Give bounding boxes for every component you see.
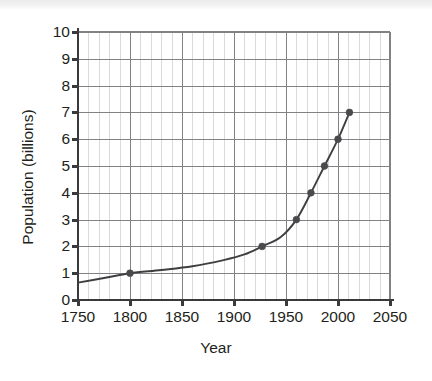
x-tick-label-1850: 1850: [152, 309, 212, 325]
x-tick-label-1800: 1800: [100, 309, 160, 325]
x-tick-label-1950: 1950: [256, 309, 316, 325]
x-axis-title: Year: [0, 339, 432, 357]
x-tick-label-1750: 1750: [48, 309, 108, 325]
x-tick-label-1900: 1900: [204, 309, 264, 325]
y-axis-title: Population (billions): [19, 87, 37, 267]
x-axis-tick-labels: 1750180018501900195020002050: [0, 0, 432, 381]
x-tick-label-2050: 2050: [360, 309, 420, 325]
population-growth-chart: 012345678910 175018001850190019502000205…: [0, 0, 432, 381]
x-tick-label-2000: 2000: [308, 309, 368, 325]
